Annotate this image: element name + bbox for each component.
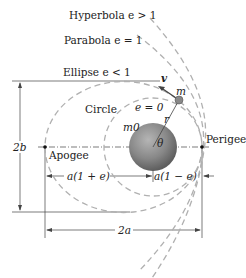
circle-label: Circle bbox=[85, 104, 117, 115]
satellite bbox=[175, 96, 183, 104]
satellite-mass-label: m bbox=[176, 86, 186, 97]
perigee-label: Perigee bbox=[206, 134, 246, 145]
circle-eccentricity-label: e = 0 bbox=[135, 102, 163, 113]
central-mass-label: m0 bbox=[123, 122, 140, 133]
perigee-point bbox=[200, 145, 204, 149]
angle-label: θ bbox=[157, 138, 163, 149]
apogee-point bbox=[43, 145, 47, 149]
parabola-label: Parabola e = 1 bbox=[64, 35, 143, 46]
hyperbola-label: Hyperbola e > 1 bbox=[69, 10, 156, 21]
apogee-distance-label: a(1 + e) bbox=[67, 171, 110, 182]
apogee-label: Apogee bbox=[49, 150, 89, 161]
perigee-distance-label: a(1 − e) bbox=[154, 171, 197, 182]
major-axis-label: 2a bbox=[118, 225, 131, 236]
minor-axis-label: 2b bbox=[13, 142, 26, 153]
orbits bbox=[45, 18, 206, 278]
radius-label: r bbox=[164, 114, 169, 125]
velocity-label: v bbox=[161, 73, 167, 84]
ellipse-label: Ellipse e < 1 bbox=[63, 67, 131, 78]
